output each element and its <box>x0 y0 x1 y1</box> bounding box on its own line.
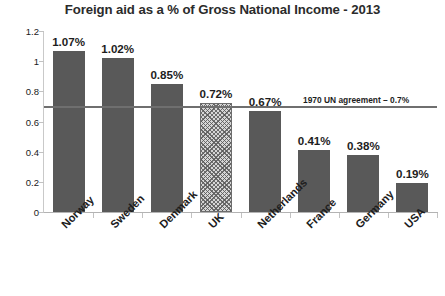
x-axis-tick <box>339 213 340 218</box>
bar <box>102 58 134 212</box>
y-axis-tick <box>39 152 44 153</box>
bar-value-label: 0.19% <box>396 167 429 180</box>
chart-title: Foreign aid as a % of Gross National Inc… <box>0 2 445 17</box>
y-axis-tick <box>39 212 44 213</box>
bar <box>249 111 281 212</box>
bar-value-label: 0.72% <box>200 87 233 100</box>
x-axis-tick <box>142 213 143 218</box>
bar <box>396 183 428 212</box>
x-axis-tick <box>93 213 94 218</box>
bar-value-label: 0.38% <box>347 139 380 152</box>
bar <box>151 84 183 212</box>
x-axis-tick <box>191 213 192 218</box>
y-axis-tick <box>39 31 44 32</box>
y-axis: 00.20.40.60.811.2 <box>0 0 39 296</box>
bar <box>53 51 85 212</box>
y-axis-tick <box>39 91 44 92</box>
y-axis-label: 1.2 <box>3 26 39 37</box>
y-axis-label: 0.6 <box>3 116 39 127</box>
category-label: UK <box>206 211 226 231</box>
bar-value-label: 0.85% <box>150 68 183 81</box>
chart-container: Foreign aid as a % of Gross National Inc… <box>0 0 445 296</box>
reference-line <box>44 106 437 108</box>
x-axis-tick <box>388 213 389 218</box>
y-axis-tick <box>39 182 44 183</box>
x-axis-tick <box>241 213 242 218</box>
y-axis-tick <box>39 122 44 123</box>
plot-area <box>44 31 437 212</box>
y-axis-label: 1 <box>3 56 39 67</box>
y-axis-label: 0 <box>3 207 39 218</box>
y-axis-label: 0.2 <box>3 176 39 187</box>
bar <box>200 103 232 212</box>
x-axis-tick <box>290 213 291 218</box>
bar-value-label: 0.67% <box>249 95 282 108</box>
y-axis-label: 0.8 <box>3 86 39 97</box>
y-axis-tick <box>39 61 44 62</box>
bar-value-label: 0.41% <box>298 134 331 147</box>
x-axis-tick <box>437 213 438 218</box>
y-axis-label: 0.4 <box>3 146 39 157</box>
bar-value-label: 1.07% <box>52 35 85 48</box>
bar-value-label: 1.02% <box>101 42 134 55</box>
reference-line-label: 1970 UN agreement – 0.7% <box>303 95 409 105</box>
